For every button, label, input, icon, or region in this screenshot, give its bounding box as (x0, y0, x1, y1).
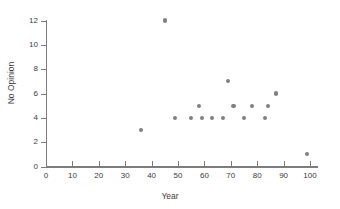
data-point (250, 104, 254, 108)
data-point (266, 104, 270, 108)
y-axis-title: No Opinion (6, 48, 16, 118)
y-tick-label: 10 (20, 40, 38, 49)
x-tick-label: 100 (298, 171, 322, 180)
data-point (173, 116, 177, 120)
x-tick-label: 30 (113, 171, 137, 180)
data-point (210, 116, 214, 120)
data-point (197, 104, 201, 108)
data-point (274, 91, 278, 95)
data-point (242, 116, 246, 120)
x-tick-label: 60 (192, 171, 216, 180)
y-tick-label: 12 (20, 16, 38, 25)
data-point (221, 116, 225, 120)
data-point (189, 116, 193, 120)
x-tick-label: 70 (219, 171, 243, 180)
x-tick (99, 161, 100, 167)
x-tick-label: 10 (60, 171, 84, 180)
x-tick (152, 161, 153, 167)
x-tick (284, 161, 285, 167)
x-axis-title: Year (0, 191, 340, 201)
x-tick-label: 90 (272, 171, 296, 180)
y-tick-label: 2 (20, 137, 38, 146)
x-tick (310, 161, 311, 167)
x-tick (72, 161, 73, 167)
x-tick-label: 80 (245, 171, 269, 180)
data-point (200, 116, 204, 120)
x-tick (257, 161, 258, 167)
y-tick-label: 4 (20, 113, 38, 122)
x-tick (204, 161, 205, 167)
y-tick-label: 8 (20, 64, 38, 73)
data-point (305, 152, 309, 156)
data-point (163, 18, 167, 22)
x-axis-line (46, 166, 318, 168)
y-tick (41, 142, 46, 143)
data-point (226, 79, 230, 83)
y-tick (41, 94, 46, 95)
x-tick-label: 0 (34, 171, 58, 180)
x-tick-label: 40 (140, 171, 164, 180)
x-tick (125, 161, 126, 167)
y-tick-label: 0 (20, 162, 38, 171)
plot-area: 0102030405060708090100 024681012 No Opin… (0, 0, 340, 209)
scatter-chart: 0102030405060708090100 024681012 No Opin… (0, 0, 340, 209)
x-tick-label: 50 (166, 171, 190, 180)
x-tick (231, 161, 232, 167)
y-tick (41, 167, 46, 168)
data-point (139, 128, 143, 132)
data-point (231, 104, 235, 108)
y-tick (41, 21, 46, 22)
data-point (263, 116, 267, 120)
y-tick-label: 6 (20, 89, 38, 98)
y-tick (41, 118, 46, 119)
x-tick (178, 161, 179, 167)
x-tick (46, 161, 47, 167)
x-tick-label: 20 (87, 171, 111, 180)
y-tick (41, 69, 46, 70)
y-tick (41, 45, 46, 46)
